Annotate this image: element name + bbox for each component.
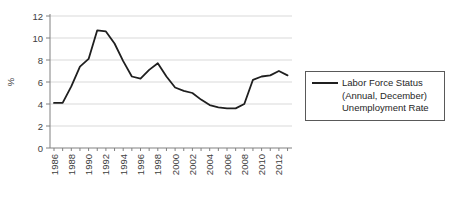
y-tick-label: 0 bbox=[38, 143, 43, 154]
x-tick-label: 1990 bbox=[83, 154, 94, 175]
gridlines bbox=[50, 16, 292, 126]
x-tick-label: 1998 bbox=[152, 154, 163, 175]
legend-line-swatch-icon bbox=[312, 82, 338, 84]
x-tick-label: 1988 bbox=[66, 154, 77, 175]
y-axis-title: % bbox=[5, 77, 16, 86]
chart-legend: Labor Force Status (Annual, December) Un… bbox=[305, 71, 445, 121]
y-tick-label: 12 bbox=[32, 11, 43, 22]
x-tick-label: 2002 bbox=[187, 154, 198, 175]
unemployment-rate-line bbox=[54, 30, 288, 108]
y-tick-label: 10 bbox=[32, 33, 43, 44]
x-tick-label: 2012 bbox=[273, 154, 284, 175]
legend-label-line-3: Unemployment Rate bbox=[312, 102, 438, 115]
unemployment-rate-chart-figure: % 02468101219861988199019921994199619982… bbox=[0, 0, 459, 199]
legend-label-line-2: (Annual, December) bbox=[312, 90, 438, 103]
legend-entry: Labor Force Status bbox=[312, 77, 438, 90]
x-tick-label: 1996 bbox=[135, 154, 146, 175]
x-tick-label: 2008 bbox=[239, 154, 250, 175]
y-tick-label: 8 bbox=[38, 55, 43, 66]
x-tick-label: 2010 bbox=[256, 154, 267, 175]
x-tick-label: 1986 bbox=[49, 154, 60, 175]
x-tick-label: 1994 bbox=[118, 154, 129, 175]
y-tick-label: 4 bbox=[38, 99, 43, 110]
x-tick-label: 2004 bbox=[204, 154, 215, 175]
x-tick-label: 2000 bbox=[170, 154, 181, 175]
axis-tick-labels: 0246810121986198819901992199419961998200… bbox=[32, 11, 284, 176]
x-tick-label: 2006 bbox=[222, 154, 233, 175]
legend-label-line-1: Labor Force Status bbox=[342, 77, 423, 90]
y-tick-label: 2 bbox=[38, 121, 43, 132]
x-tick-label: 1992 bbox=[100, 154, 111, 175]
y-tick-label: 6 bbox=[38, 77, 43, 88]
unemployment-line-series bbox=[54, 30, 288, 108]
